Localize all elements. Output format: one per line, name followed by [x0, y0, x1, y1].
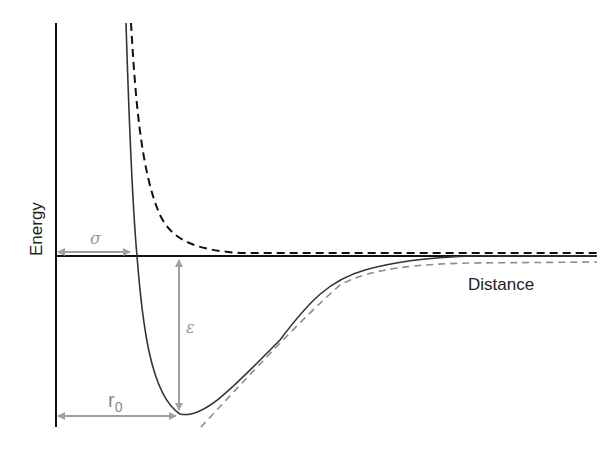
r0-label: r0: [108, 389, 123, 415]
x-axis-label: Distance: [468, 275, 534, 294]
attractive-curve: [201, 262, 597, 427]
repulsive-curve: [131, 23, 597, 253]
y-axis-label: Energy: [27, 202, 46, 256]
sigma-label: σ: [90, 229, 102, 248]
total-potential-curve: [126, 23, 597, 415]
epsilon-label: ε: [186, 318, 195, 337]
potential-energy-diagram: σ ε r0 Energy Distance: [0, 0, 615, 451]
